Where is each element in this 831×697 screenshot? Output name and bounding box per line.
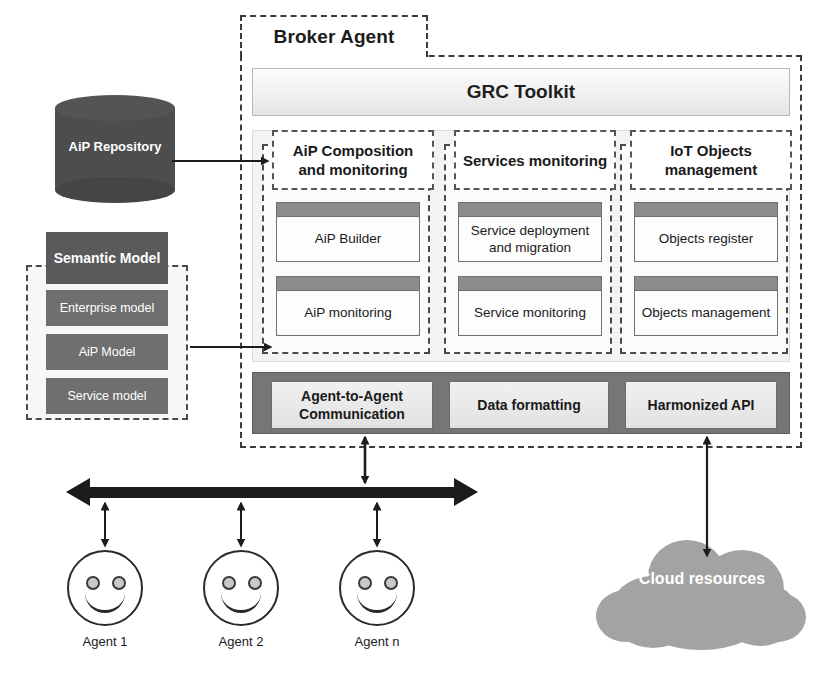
service-agent-to-agent-communication-label: Agent-to-Agent Communication — [272, 387, 432, 423]
mod-box-service-deployment-label: Service deployment and migration — [459, 216, 601, 261]
database-icon-bottom — [55, 177, 175, 203]
semantic-item-aip-model-label: AiP Model — [79, 344, 136, 360]
mod-box-stripe — [277, 277, 419, 291]
module-column-iot-header-label: IoT Objects management — [636, 141, 786, 179]
service-harmonized-api: Harmonized API — [625, 381, 777, 429]
mod-box-aip-monitoring-label: AiP monitoring — [277, 290, 419, 335]
service-agent-to-agent-communication: Agent-to-Agent Communication — [271, 381, 433, 429]
module-column-services: Services monitoring Service deployment a… — [444, 144, 612, 354]
mod-box-stripe — [635, 277, 777, 291]
mod-box-objects-management-label: Objects management — [635, 290, 777, 335]
cloud-icon-puff — [748, 592, 806, 642]
module-column-aip-header-label: AiP Composition and monitoring — [278, 141, 428, 179]
agent-2-caption: Agent 2 — [198, 634, 284, 649]
agent-2: Agent 2 — [198, 550, 284, 649]
module-column-services-header-label: Services monitoring — [463, 151, 607, 170]
service-data-formatting-label: Data formatting — [477, 396, 580, 414]
module-column-iot-header: IoT Objects management — [630, 130, 792, 190]
database-icon-top — [55, 95, 175, 121]
mod-box-stripe — [277, 203, 419, 217]
cloud-resources-label: Cloud resources — [596, 568, 808, 590]
mod-box-service-monitoring-label: Service monitoring — [459, 290, 601, 335]
module-column-iot: IoT Objects management Objects register … — [620, 144, 788, 354]
cloud-icon-puff — [596, 590, 656, 642]
mod-box-aip-builder-label: AiP Builder — [277, 216, 419, 261]
module-column-services-header: Services monitoring — [454, 130, 616, 190]
grc-toolkit-bar: GRC Toolkit — [252, 68, 790, 116]
bus-arrowhead-right-icon — [454, 478, 478, 506]
mod-box-stripe — [459, 277, 601, 291]
semantic-item-service-model: Service model — [46, 378, 168, 414]
agent-n: Agent n — [334, 550, 420, 649]
semantic-item-enterprise-model: Enterprise model — [46, 290, 168, 326]
aip-repository-label: AiP Repository — [55, 139, 175, 154]
module-column-aip: AiP Composition and monitoring AiP Build… — [262, 144, 430, 354]
aip-repository-cylinder: AiP Repository — [55, 95, 175, 203]
smiley-face-icon — [203, 550, 279, 626]
cloud-resources: Cloud resources — [596, 530, 808, 654]
mod-box-stripe — [635, 203, 777, 217]
mod-box-aip-builder: AiP Builder — [276, 202, 420, 262]
mod-box-objects-register-label: Objects register — [635, 216, 777, 261]
semantic-model-header-label: Semantic Model — [54, 249, 161, 267]
smile-icon — [221, 588, 261, 613]
service-data-formatting: Data formatting — [449, 381, 609, 429]
broker-agent-title: Broker Agent — [274, 26, 395, 48]
semantic-item-enterprise-model-label: Enterprise model — [60, 300, 155, 316]
cloud-icon-puff — [640, 590, 762, 650]
module-column-aip-header: AiP Composition and monitoring — [272, 130, 434, 190]
agent-1-caption: Agent 1 — [62, 634, 148, 649]
mod-box-aip-monitoring: AiP monitoring — [276, 276, 420, 336]
semantic-item-service-model-label: Service model — [67, 388, 146, 404]
mod-box-service-deployment: Service deployment and migration — [458, 202, 602, 262]
smiley-face-icon — [67, 550, 143, 626]
broker-services-bar: Agent-to-Agent Communication Data format… — [252, 372, 790, 434]
smile-icon — [85, 588, 125, 613]
mod-box-objects-management: Objects management — [634, 276, 778, 336]
mod-box-objects-register: Objects register — [634, 202, 778, 262]
mod-box-stripe — [459, 203, 601, 217]
bus-arrowhead-left-icon — [66, 478, 90, 506]
grc-toolkit-label: GRC Toolkit — [467, 81, 575, 103]
agent-n-caption: Agent n — [334, 634, 420, 649]
smile-icon — [357, 588, 397, 613]
broker-agent-title-tab: Broker Agent — [240, 15, 428, 57]
semantic-model-header: Semantic Model — [46, 232, 168, 284]
agent-communication-bus — [88, 487, 454, 498]
semantic-item-aip-model: AiP Model — [46, 334, 168, 370]
agent-1: Agent 1 — [62, 550, 148, 649]
service-harmonized-api-label: Harmonized API — [648, 396, 755, 414]
figure-canvas: Broker Agent GRC Toolkit AiP Composition… — [0, 0, 831, 697]
mod-box-service-monitoring: Service monitoring — [458, 276, 602, 336]
tab-mask — [244, 52, 424, 59]
smiley-face-icon — [339, 550, 415, 626]
